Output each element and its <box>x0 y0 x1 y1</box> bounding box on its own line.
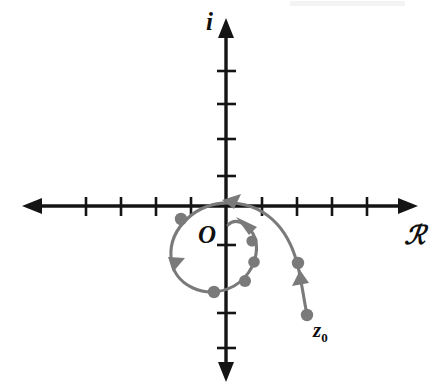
flow-arrow-outer-lower <box>292 270 309 286</box>
flow-arrow-outer-left <box>168 257 185 272</box>
figure-canvas <box>0 0 440 392</box>
point-z4 <box>239 275 251 287</box>
imaginary-axis-arrow-down <box>218 362 234 382</box>
start-point-symbol: z <box>313 318 321 342</box>
real-axis-arrow-left <box>22 198 42 214</box>
point-z6 <box>246 235 257 246</box>
point-z2 <box>175 213 187 225</box>
start-point-label: z0 <box>313 320 328 344</box>
origin-label: O <box>198 222 216 247</box>
point-z3 <box>208 286 220 298</box>
imaginary-axis-label: i <box>206 9 213 34</box>
real-axis-arrow-right <box>398 198 418 214</box>
point-z1 <box>292 257 304 269</box>
point-z0 <box>301 309 313 321</box>
point-z5 <box>248 256 260 268</box>
real-axis-label: ℛ <box>404 222 428 248</box>
start-point-subscript: 0 <box>321 330 328 345</box>
complex-plane-figure: i ℛ O z0 <box>0 0 440 392</box>
real-axis <box>22 197 418 216</box>
imaginary-axis-arrow-up <box>218 18 234 38</box>
